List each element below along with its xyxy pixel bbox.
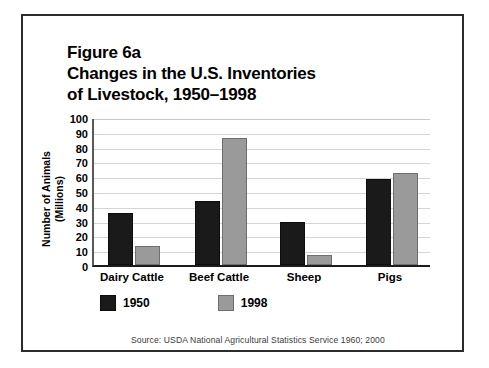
legend: 1950 1998 (100, 295, 267, 311)
plot-wrap: 0102030405060708090100 Dairy CattleBeef … (92, 119, 430, 267)
legend-item-1998: 1998 (218, 295, 268, 311)
y-tick-label: 60 (76, 173, 88, 184)
bar-sheep-1950 (280, 222, 305, 265)
y-tick-label: 30 (76, 217, 88, 228)
page-title: Figure 6a Changes in the U.S. Inventorie… (67, 42, 417, 105)
x-tick-label: Beef Cattle (189, 271, 249, 283)
title-line-2: Changes in the U.S. Inventories (67, 63, 417, 84)
bar-group (195, 119, 247, 265)
bar-group (108, 119, 160, 265)
bar-dairy-cattle-1998 (135, 246, 160, 265)
legend-swatch-1950 (100, 295, 116, 311)
figure-frame: Figure 6a Changes in the U.S. Inventorie… (21, 14, 464, 352)
legend-item-1950: 1950 (100, 295, 150, 311)
x-axis-category-labels: Dairy CattleBeef CattleSheepPigs (92, 271, 430, 287)
x-tick-label: Sheep (287, 271, 322, 283)
title-line-1: Figure 6a (67, 42, 417, 63)
bar-pigs-1950 (366, 179, 391, 265)
y-axis-ticks: 0102030405060708090100 (56, 119, 88, 267)
y-tick-label: 50 (76, 188, 88, 199)
legend-label-1950: 1950 (123, 296, 150, 310)
y-tick-label: 40 (76, 202, 88, 213)
bar-dairy-cattle-1950 (108, 213, 133, 265)
title-line-3: of Livestock, 1950–1998 (67, 84, 417, 105)
bars-layer (94, 119, 430, 265)
bar-group (366, 119, 418, 265)
legend-swatch-1998 (218, 295, 234, 311)
y-tick-label: 100 (70, 114, 88, 125)
source-note: Source: USDA National Agricultural Stati… (131, 335, 385, 345)
y-tick-label: 80 (76, 143, 88, 154)
y-axis-title-line-1: Number of Animals (40, 151, 53, 247)
y-tick-label: 20 (76, 232, 88, 243)
legend-label-1998: 1998 (241, 296, 268, 310)
bar-sheep-1998 (307, 255, 332, 265)
bar-pigs-1998 (393, 173, 418, 265)
y-tick-label: 70 (76, 158, 88, 169)
x-tick-label: Dairy Cattle (100, 271, 164, 283)
bar-group (280, 119, 332, 265)
bar-beef-cattle-1998 (222, 138, 247, 265)
y-tick-label: 0 (82, 262, 88, 273)
y-tick-label: 90 (76, 128, 88, 139)
bar-beef-cattle-1950 (195, 201, 220, 265)
x-tick-label: Pigs (378, 271, 402, 283)
plot-area (92, 119, 430, 267)
y-tick-label: 10 (76, 247, 88, 258)
